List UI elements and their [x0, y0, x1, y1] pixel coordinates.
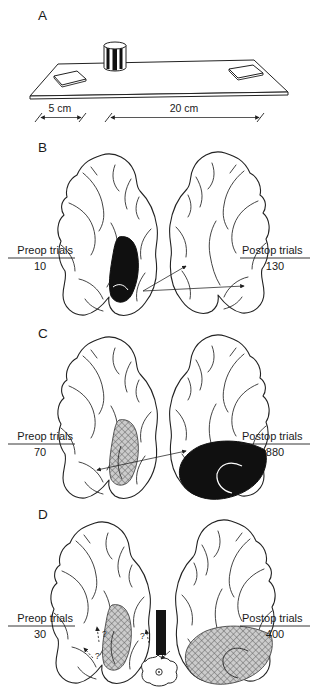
- question-mark: ?: [102, 629, 107, 639]
- panel-d-right-brain: [176, 520, 276, 684]
- preop-label: Preop trials: [17, 612, 73, 624]
- occluder-bar: [156, 610, 166, 655]
- panel-a: A 5 cm 20 cm: [30, 8, 288, 122]
- question-mark: ?: [95, 651, 100, 661]
- postop-label: Postop trials: [242, 612, 303, 624]
- postop-value: 400: [266, 628, 284, 640]
- striped-cylinder: [104, 42, 126, 71]
- figure-canvas: A 5 cm 20 cm: [0, 0, 320, 688]
- panel-c-left-brain: [58, 337, 158, 498]
- dimension-small: 5 cm: [35, 102, 86, 122]
- preop-label: Preop trials: [17, 244, 73, 256]
- postop-value: 880: [266, 446, 284, 458]
- panel-c-right-brain: [170, 335, 270, 499]
- panel-c: C Preop trials 70 Postop trials 880: [8, 326, 310, 499]
- panel-a-letter: A: [38, 8, 47, 23]
- panel-b-left-brain: [58, 154, 158, 315]
- postop-value: 130: [266, 260, 284, 272]
- panel-b-letter: B: [38, 140, 47, 155]
- panel-d-left-brain: [51, 522, 151, 683]
- preop-value: 70: [34, 446, 46, 458]
- figure-root: A 5 cm 20 cm: [0, 0, 320, 688]
- dim-large-label: 20 cm: [170, 102, 199, 114]
- preop-label: Preop trials: [17, 430, 73, 442]
- panel-b: B Preop trials 10 Postop trials 130: [8, 140, 310, 315]
- postop-label: Postop trials: [242, 244, 303, 256]
- cylinder-top: [104, 42, 126, 49]
- preop-value: 30: [34, 628, 46, 640]
- panel-d-letter: D: [38, 507, 48, 522]
- preop-value: 10: [34, 260, 46, 272]
- dimension-large: 20 cm: [105, 102, 264, 122]
- panel-d: D ? ? ? Preop trials 30 Postop: [8, 507, 310, 686]
- dim-small-label: 5 cm: [49, 102, 72, 114]
- cylinder-stripe: [107, 46, 110, 70]
- brainstem-section: [142, 655, 178, 686]
- postop-label: Postop trials: [242, 430, 303, 442]
- question-mark: ?: [140, 631, 145, 641]
- panel-c-letter: C: [38, 326, 48, 341]
